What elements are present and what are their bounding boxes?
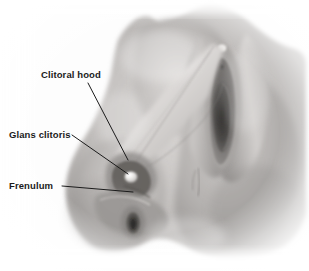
leader-line-clitoral-hood <box>88 83 128 160</box>
label-glans-clitoris: Glans clitoris <box>9 129 71 140</box>
anatomical-figure: Clitoral hood Glans clitoris Frenulum <box>0 0 309 271</box>
label-clitoral-hood: Clitoral hood <box>41 69 101 80</box>
label-frenulum: Frenulum <box>9 180 53 191</box>
leader-line-frenulum <box>62 186 133 192</box>
leader-line-glans-clitoris <box>72 135 128 174</box>
